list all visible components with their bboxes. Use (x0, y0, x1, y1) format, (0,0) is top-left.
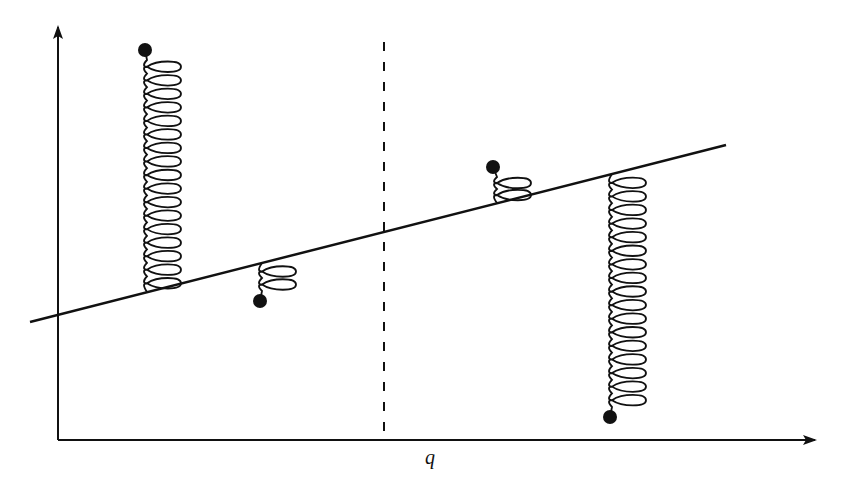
spring-right-tall (603, 174, 646, 424)
mass-ball (486, 160, 500, 174)
x-axis-label: q (425, 446, 435, 469)
mass-ball (138, 43, 152, 57)
spring-coil (144, 50, 181, 292)
spring-left-tall (138, 43, 181, 292)
spring-coil (259, 263, 296, 301)
spring-left-short (253, 263, 296, 308)
spring-diagram (0, 0, 843, 485)
mass-ball (603, 410, 617, 424)
springs-group (138, 43, 646, 424)
mass-ball (253, 294, 267, 308)
spring-coil (493, 167, 531, 203)
spring-coil (609, 174, 646, 417)
